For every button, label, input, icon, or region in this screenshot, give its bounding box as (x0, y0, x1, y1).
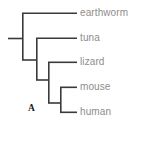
cladogram-branches (0, 0, 145, 165)
tip-label-human: human (80, 107, 111, 117)
tip-label-tuna: tuna (80, 33, 100, 43)
panel-label: A (28, 104, 35, 114)
tip-label-mouse: mouse (80, 82, 111, 92)
tip-label-earthworm: earthworm (80, 8, 128, 18)
tip-label-lizard: lizard (80, 57, 105, 67)
cladogram-figure: earthworm tuna lizard mouse human A (0, 0, 145, 165)
